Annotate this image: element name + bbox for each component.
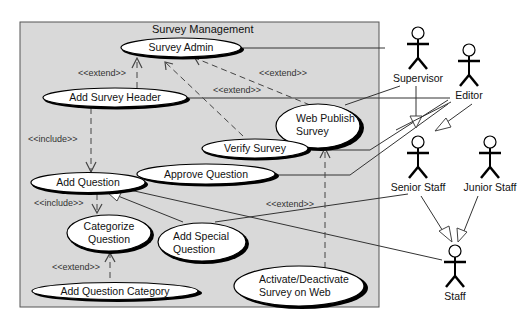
stereo-extend-activate: <<extend>> [266,199,314,209]
stereo-extend-category: <<extend>> [52,262,100,272]
use-case-label: Question [173,243,215,255]
use-case-label: Categorize [84,220,135,232]
generalization-arrowhead [457,228,467,242]
stereo-include-header: <<include>> [28,134,78,144]
use-case-label: Survey [296,125,329,137]
actor-label: Supervisor [393,72,444,84]
use-case-label: Add Survey Header [69,91,161,103]
use-case-label: Approve Question [164,168,248,180]
use-case-label: Survey Admin [149,41,214,53]
actor-editor[interactable]: Editor [455,44,483,101]
use-case-add-survey-header[interactable]: Add Survey Header [43,88,190,110]
use-case-label: Web Publish [296,112,355,124]
actor-label: Staff [444,290,465,302]
use-case-survey-admin[interactable]: Survey Admin [121,38,244,60]
use-case-verify-survey[interactable]: Verify Survey [202,139,311,161]
use-case-label: Activate/Deactivate [259,273,349,285]
actor-staff[interactable]: Staff [444,245,466,302]
actor-label: Junior Staff [464,181,517,193]
actor-supervisor[interactable]: Supervisor [393,27,444,84]
use-case-add-question[interactable]: Add Question [31,173,148,196]
generalization-arrowhead [435,118,451,131]
actor-junior-staff[interactable]: Junior Staff [464,136,517,193]
use-case-label: Verify Survey [224,142,287,154]
use-case-label: Add Question Category [60,285,170,297]
actor-label: Editor [455,89,483,101]
actor-senior-staff[interactable]: Senior Staff [391,136,446,193]
use-case-label: Survey on Web [259,286,331,298]
use-case-label: Add Special [173,230,229,242]
stereo-extend-web-publish: <<extend>> [259,68,307,78]
stereo-extend-header: <<extend>> [78,68,126,78]
gen-junior-staff-staff [462,196,478,236]
system-title: Survey Management [152,23,254,35]
use-case-add-question-category[interactable]: Add Question Category [32,283,202,303]
use-case-approve-question[interactable]: Approve Question [137,164,279,187]
use-case-label: Add Question [56,176,120,188]
use-case-label: Question [88,233,130,245]
use-case-diagram: Survey Management [0,0,531,322]
stereo-include-add-question: <<include>> [34,198,84,208]
stereo-extend-verify: <<extend>> [213,85,261,95]
use-case-categorize-question[interactable]: Categorize Question [67,215,154,254]
use-case-add-special-question[interactable]: Add Special Question [158,223,249,264]
actor-label: Senior Staff [391,181,446,193]
